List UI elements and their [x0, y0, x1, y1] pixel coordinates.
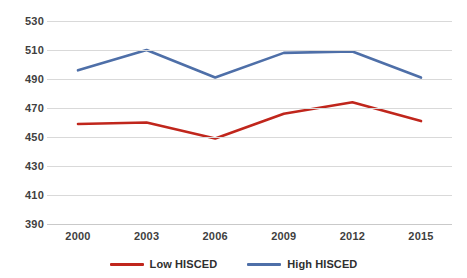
y-axis-tick-label: 530 — [2, 16, 44, 27]
x-axis: 200020032006200920122015 — [47, 230, 452, 246]
y-axis-tick-label: 430 — [2, 161, 44, 172]
series-line — [78, 50, 421, 78]
y-axis-tick-label: 510 — [2, 45, 44, 56]
gridline — [47, 195, 452, 196]
legend-item[interactable]: Low HISCED — [110, 258, 218, 270]
legend-item[interactable]: High HISCED — [247, 258, 357, 270]
gridline — [47, 108, 452, 109]
plot-area — [47, 21, 452, 224]
gridline — [47, 21, 452, 22]
legend-color-swatch — [110, 263, 144, 266]
y-axis-tick-label: 470 — [2, 103, 44, 114]
gridline — [47, 137, 452, 138]
line-chart: 530510490470450430410390 200020032006200… — [0, 0, 467, 278]
x-axis-tick-label: 2009 — [254, 230, 314, 243]
legend-label: Low HISCED — [150, 258, 218, 270]
gridline — [47, 50, 452, 51]
y-axis: 530510490470450430410390 — [0, 0, 44, 278]
x-axis-tick-label: 2015 — [391, 230, 451, 243]
y-axis-tick-label: 410 — [2, 190, 44, 201]
x-axis-tick-label: 2012 — [322, 230, 382, 243]
gridline — [47, 79, 452, 80]
x-axis-tick-label: 2000 — [48, 230, 108, 243]
gridline — [47, 224, 452, 225]
x-axis-tick-label: 2006 — [185, 230, 245, 243]
series-layer — [47, 21, 452, 224]
legend-label: High HISCED — [287, 258, 357, 270]
y-axis-tick-label: 390 — [2, 219, 44, 230]
gridline — [47, 166, 452, 167]
y-axis-tick-label: 490 — [2, 74, 44, 85]
chart-legend: Low HISCEDHigh HISCED — [0, 253, 467, 275]
y-axis-tick-label: 450 — [2, 132, 44, 143]
x-axis-tick-label: 2003 — [117, 230, 177, 243]
legend-color-swatch — [247, 263, 281, 266]
